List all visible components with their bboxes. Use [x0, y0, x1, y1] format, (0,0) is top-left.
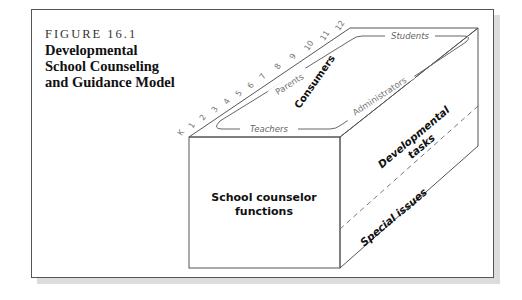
teachers-label: Teachers [250, 124, 288, 134]
front-face-label-line-2: functions [235, 205, 293, 218]
administrators-label: Administrators [351, 75, 409, 118]
grade-label: 9 [288, 52, 298, 61]
grade-label: 8 [273, 62, 283, 71]
grade-label: 12 [333, 19, 346, 32]
grade-label: 6 [246, 81, 256, 90]
grade-label: 1 [187, 121, 197, 130]
cube-diagram: Teachers Students Parents Administrators… [0, 0, 522, 300]
grade-label: 5 [234, 89, 244, 98]
grade-label: 11 [318, 29, 331, 42]
grade-label: K [176, 127, 187, 137]
grade-label: 7 [258, 72, 268, 81]
grade-label: 4 [222, 97, 232, 106]
grade-label: 10 [302, 39, 315, 52]
students-label: Students [391, 31, 429, 41]
grade-label: 3 [210, 105, 220, 114]
grade-label: 2 [198, 113, 208, 122]
special-issues-label: Special issues [358, 186, 430, 249]
front-face-label-line-1: School counselor [211, 191, 317, 204]
